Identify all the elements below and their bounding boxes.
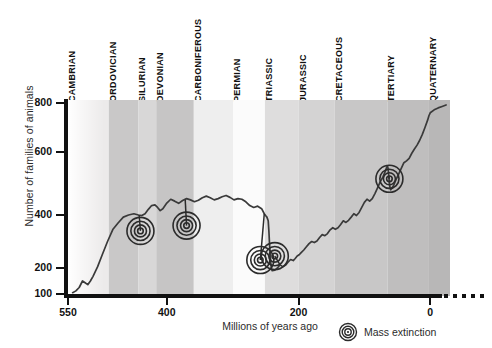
period-label-tertiary: TERTIARY xyxy=(386,55,396,102)
y-tick-label: 100 xyxy=(18,287,52,299)
period-label-devonian: DEVONIAN xyxy=(155,52,165,102)
period-label-ordovician: ORDOVICIAN xyxy=(108,41,118,102)
legend-label-mass-extinction: Mass extinction xyxy=(364,326,436,338)
y-tick xyxy=(56,293,65,295)
period-band xyxy=(138,100,156,296)
period-label-jurassic: JURASSIC xyxy=(298,54,308,102)
x-axis-dotted-extension xyxy=(444,294,488,298)
plot-area xyxy=(68,100,450,296)
period-band xyxy=(387,100,428,296)
y-tick xyxy=(56,267,65,269)
legend: Mass extinction xyxy=(338,322,436,342)
x-tick-label: 400 xyxy=(147,306,187,318)
period-label-triassic: TRIASSIC xyxy=(264,58,274,102)
x-tick xyxy=(298,297,300,305)
period-band xyxy=(156,100,194,296)
period-label-carboniferous: CARBONIFEROUS xyxy=(193,19,203,102)
x-tick xyxy=(166,297,168,305)
x-tick-label: 550 xyxy=(48,306,88,318)
y-tick xyxy=(56,214,65,216)
y-tick xyxy=(56,151,65,153)
period-label-permian: PERMIAN xyxy=(232,58,242,102)
period-band xyxy=(109,100,139,296)
cambrian-fade xyxy=(68,100,104,296)
mass-extinction-marker xyxy=(261,243,288,270)
mass-extinction-marker xyxy=(376,165,403,192)
period-label-silurian: SILURIAN xyxy=(137,57,147,102)
y-tick-label: 600 xyxy=(18,145,52,157)
extinction-chart-figure: Number of families of animals Millions o… xyxy=(0,0,492,348)
y-tick-label: 400 xyxy=(18,208,52,220)
period-label-cretaceous: CRETACEOUS xyxy=(334,37,344,102)
y-tick xyxy=(56,102,65,104)
period-band xyxy=(194,100,234,296)
period-label-cambrian: CAMBRIAN xyxy=(67,51,77,102)
x-tick xyxy=(67,297,69,305)
period-label-quaternary: QUATERNARY xyxy=(428,37,438,103)
y-tick-label: 200 xyxy=(18,261,52,273)
plot-svg xyxy=(68,100,450,296)
y-tick-label: 800 xyxy=(18,96,52,108)
period-band xyxy=(335,100,388,296)
x-tick-label: 200 xyxy=(279,306,319,318)
period-band xyxy=(299,100,335,296)
x-tick-label: 0 xyxy=(410,306,450,318)
mass-extinction-marker-icon xyxy=(338,322,358,342)
period-band xyxy=(429,100,450,296)
x-tick xyxy=(429,297,431,305)
x-axis-line xyxy=(64,294,442,298)
